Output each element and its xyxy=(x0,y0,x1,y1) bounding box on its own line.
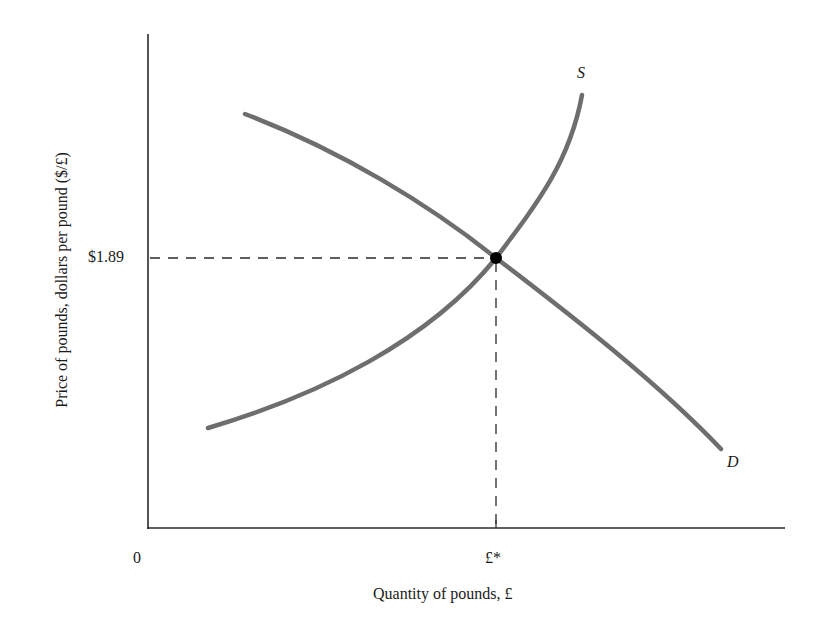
supply-curve-label: S xyxy=(577,64,585,82)
supply-demand-chart xyxy=(0,0,822,637)
supply-curve xyxy=(208,95,582,428)
x-axis-title: Quantity of pounds, £ xyxy=(373,585,513,603)
demand-curve-label: D xyxy=(727,453,739,471)
origin-label: 0 xyxy=(133,549,141,567)
quantity-tick-label: £* xyxy=(485,549,501,567)
price-tick-label: $1.89 xyxy=(88,248,124,266)
y-axis-title: Price of pounds, dollars per pound ($/£) xyxy=(53,152,71,408)
equilibrium-point xyxy=(490,252,502,264)
demand-curve xyxy=(245,114,721,449)
